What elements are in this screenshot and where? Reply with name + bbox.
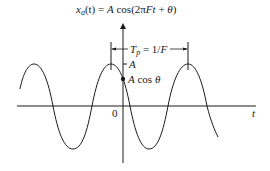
sinusoid-diagram: xa(t) = A cos(2πFt + θ) Tp = 1/F A A cos… [0,0,270,171]
origin-label: 0 [112,107,118,119]
formula-title: xa(t) = A cos(2πFt + θ) [75,3,177,17]
intercept-dot [121,77,125,81]
period-label: Tp = 1/F [130,43,167,57]
intercept-label: A cos θ [127,73,161,85]
amplitude-label: A [128,58,136,70]
time-axis-label: t [252,107,256,119]
